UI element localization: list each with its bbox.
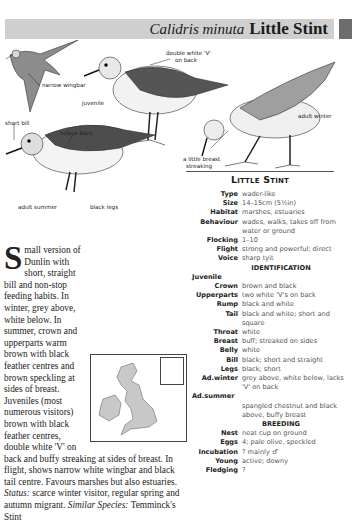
fact-row: Flocking1–10 [186, 236, 352, 245]
fact-key: Bill [186, 356, 242, 365]
description-text: mall version of Dunlin with short, strai… [4, 245, 177, 487]
fact-row: Nestneat cup on ground [186, 429, 352, 438]
fact-key: Behaviour [186, 218, 242, 236]
fact-key: Type [186, 190, 242, 199]
fact-key: Voice [186, 254, 242, 263]
dropcap: S [4, 246, 22, 271]
fact-key: Flocking [186, 236, 242, 245]
factfile: Typewader-like Size14–15cm (5½in) Habita… [186, 190, 352, 475]
fact-key: Incubation [186, 448, 242, 457]
fact-row: Size14–15cm (5½in) [186, 199, 352, 208]
fact-value: white [242, 346, 352, 355]
fact-key: Rump [186, 300, 242, 309]
fact-key: Habitat [186, 208, 242, 217]
fact-value: two white 'V's on back [242, 291, 352, 300]
label-double-white-v: double white 'V' [166, 50, 211, 57]
fact-value: black; short [242, 365, 352, 374]
fact-row: Incubation? mainly ♂ [186, 448, 352, 457]
fact-key: Belly [186, 346, 242, 355]
fact-key: Eggs [186, 438, 242, 447]
section-edge-tab [339, 19, 352, 39]
fact-row: Flightstrong and powerful; direct [186, 245, 352, 254]
fact-key: Breast [186, 337, 242, 346]
fact-value: strong and powerful; direct [242, 245, 352, 254]
fact-row: Throatwhite [186, 328, 352, 337]
fact-row: Upperpartstwo white 'V's on back [186, 291, 352, 300]
fact-value: 14–15cm (5½in) [242, 199, 352, 208]
fact-row: Ad.wintergrey above, white below, lacks … [186, 374, 352, 392]
fact-key: Upperparts [186, 291, 242, 300]
label-rufous-back: rufous back [60, 130, 93, 137]
fact-value: buff; streaked on sides [242, 337, 352, 346]
factfile-divider [186, 171, 334, 172]
status-label: Status: [4, 488, 30, 498]
label-adult-summer: adult summer [18, 204, 57, 211]
fact-key: Ad.winter [186, 374, 242, 392]
fact-key: Legs [186, 365, 242, 374]
fact-value: brown and black [242, 282, 352, 291]
fact-value: black and white; short and square [242, 310, 352, 328]
fact-row: Typewader-like [186, 190, 352, 199]
fact-value: 4; pale olive, speckled [242, 438, 352, 447]
fact-row: Behaviourwades, walks, takes off from wa… [186, 218, 352, 236]
label-double-white-v-2: on back [175, 57, 197, 64]
fact-key: Flight [186, 245, 242, 254]
fact-value: black and white [242, 300, 352, 309]
fact-row: Tailblack and white; short and square [186, 310, 352, 328]
fact-row: Eggs4; pale olive, speckled [186, 438, 352, 447]
fact-row: Rumpblack and white [186, 300, 352, 309]
label-narrow-wingbar: narrow wingbar [42, 82, 86, 89]
fact-value: wader-like [242, 190, 352, 199]
fact-key: Young [186, 457, 242, 466]
fact-value: marshes, estuaries [242, 208, 352, 217]
fact-value: black; short and straight [242, 356, 352, 365]
common-name: Little Stint [249, 19, 328, 39]
fact-value: neat cup on ground [242, 429, 352, 438]
fact-value: wades, walks, takes off from water or gr… [242, 218, 352, 236]
species-description: Small version of Dunlin with short, stra… [4, 245, 188, 523]
summer-heading: Ad.summer [186, 392, 352, 401]
factfile-title: Little Stint [186, 174, 334, 185]
label-breast-streaking: a little breast [183, 156, 220, 163]
juvenile-heading: Juvenile [186, 273, 352, 282]
fact-value: white [242, 328, 352, 337]
fact-value: sharp tyit [242, 254, 352, 263]
fact-row: Youngactive; downy [186, 457, 352, 466]
breeding-heading: BREEDING [186, 420, 352, 429]
fact-value: 1–10 [242, 236, 352, 245]
fact-value: active; downy [242, 457, 352, 466]
label-adult-winter: adult winter [298, 113, 332, 120]
fact-row: Voicesharp tyit [186, 254, 352, 263]
fact-key: Tail [186, 310, 242, 328]
fact-key: Throat [186, 328, 242, 337]
fact-value: spangled chestnut and black above, buffy… [242, 402, 352, 420]
fact-row: Crownbrown and black [186, 282, 352, 291]
fact-key: Size [186, 199, 242, 208]
label-black-legs: black legs [90, 204, 118, 211]
fact-row: Fledging? [186, 466, 352, 475]
fact-value: grey above, white below, lacks 'V' on ba… [242, 374, 352, 392]
label-juvenile: juvenile [82, 100, 104, 107]
identification-heading: IDENTIFICATION [186, 264, 352, 273]
fact-row: Bellywhite [186, 346, 352, 355]
fact-key: Fledging [186, 466, 242, 475]
species-title-band: Calidris minuta Little Stint [5, 19, 334, 39]
fact-row: Breastbuff; streaked on sides [186, 337, 352, 346]
fact-value: ? mainly ♂ [242, 448, 352, 457]
fact-key: Crown [186, 282, 242, 291]
fact-row: Habitatmarshes, estuaries [186, 208, 352, 217]
label-short-bill: short bill [5, 120, 29, 127]
latin-name: Calidris minuta [150, 21, 245, 38]
label-breast-streaking-2: streaking [186, 163, 212, 170]
fact-row: Legsblack; short [186, 365, 352, 374]
fact-value: ? [242, 466, 352, 475]
flying-bird-illustration [6, 40, 78, 112]
fact-key: Nest [186, 429, 242, 438]
fact-row: Billblack; short and straight [186, 356, 352, 365]
fact-row: spangled chestnut and black above, buffy… [186, 402, 352, 420]
similar-species-label: Similar Species: [68, 500, 129, 510]
